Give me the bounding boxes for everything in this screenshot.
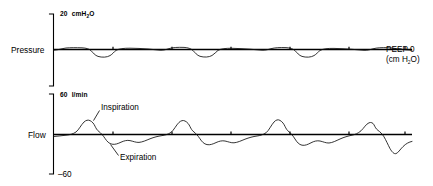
pressure-row-label: Pressure <box>11 45 45 55</box>
flow-y-axis <box>50 94 54 174</box>
flow-row-label: Flow <box>28 130 47 140</box>
inspiration-label: Inspiration <box>101 103 139 112</box>
expiration-label: Expiration <box>120 153 157 162</box>
flow-panel: 60l/min –60 Flow Inspiration <box>28 91 412 179</box>
pressure-trace <box>54 47 412 57</box>
peep-label-line2: (cm H2O) <box>386 55 420 65</box>
expiration-leader-line <box>111 145 119 156</box>
flow-trace <box>54 120 412 154</box>
pressure-scale-label: 20cmH2O <box>60 10 95 19</box>
flow-scale-label: 60l/min <box>60 91 88 98</box>
waveform-svg: 20cmH2O Pressure PEEP 0 (cm H2O) <box>0 0 433 186</box>
flow-min-label: –60 <box>58 170 72 179</box>
pressure-y-axis <box>50 14 54 86</box>
peep-label-line1: PEEP 0 <box>386 45 415 54</box>
waveform-figure: 20cmH2O Pressure PEEP 0 (cm H2O) <box>0 0 433 186</box>
inspiration-leader-line <box>94 111 100 121</box>
pressure-panel: 20cmH2O Pressure PEEP 0 (cm H2O) <box>11 10 420 86</box>
